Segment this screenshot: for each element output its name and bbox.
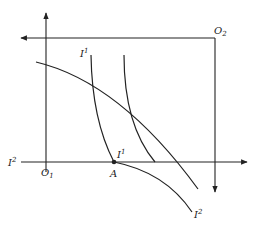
label-o2: O2: [214, 25, 227, 38]
point-a-marker: [112, 160, 117, 165]
label-o1: O1: [41, 167, 54, 180]
label-i2-left: I2: [7, 156, 17, 168]
label-i1-near-a: I1: [116, 148, 125, 160]
indifference-curve-i1-shifted: [124, 55, 155, 162]
label-a: A: [109, 168, 117, 179]
label-i1-top: I1: [79, 47, 88, 59]
indifference-curve-i1: [91, 55, 114, 162]
label-i2-bottom: I2: [193, 208, 203, 220]
edgeworth-box-diagram: O2 O1 A I1 I1 I2 I2: [0, 0, 255, 227]
indifference-curve-i2: [114, 162, 192, 212]
